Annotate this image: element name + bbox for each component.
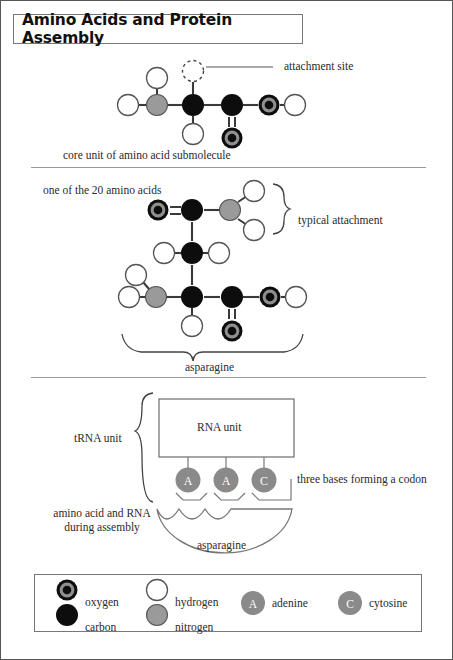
nitrogen-atom-icon	[146, 287, 167, 308]
hydrogen-atom-icon	[182, 316, 203, 337]
typical-attachment-label: typical attachment	[298, 214, 383, 226]
amide-double-bond	[170, 207, 181, 214]
core-unit-caption: core unit of amino acid submolecule	[63, 149, 231, 161]
hydrogen-atom-icon	[285, 95, 306, 116]
hydrogen-atom-icon	[286, 287, 307, 308]
legend-item-hydrogen: hydrogen	[175, 596, 218, 608]
hydrogen-atom-icon	[118, 95, 139, 116]
carbon-atom-icon	[221, 286, 243, 308]
hydrogen-atom-icon	[147, 68, 168, 89]
asparagine-brace	[122, 334, 303, 361]
diagram-page: Amino Acids and Protein Assembly	[0, 0, 453, 660]
carbon-atom-icon	[181, 199, 203, 221]
bowl-asparagine-label: asparagine	[197, 539, 246, 551]
oxygen-atom-icon	[260, 287, 281, 308]
carbon-atom-icon	[181, 242, 203, 264]
nitrogen-atom-icon	[220, 200, 241, 221]
attachment-site-icon	[183, 61, 204, 82]
diagram-artwork: A A C A C	[1, 1, 453, 660]
legend-item-cytosine: cytosine	[369, 597, 407, 609]
amino-acid-heading: one of the 20 amino acids	[43, 184, 161, 196]
legend-item-adenine: adenine	[272, 597, 308, 609]
oxygen-atom-icon	[259, 95, 280, 116]
hydrogen-atom-icon	[126, 265, 147, 286]
legend-item-carbon: carbon	[85, 621, 116, 633]
codon-bases: A A C	[176, 468, 277, 493]
oxygen-atom-icon	[222, 128, 243, 149]
base-letter: A	[222, 474, 231, 488]
asparagine-brace-label: asparagine	[185, 361, 234, 373]
legend-item-oxygen: oxygen	[85, 596, 119, 608]
assembly-label-line2: during assembly	[64, 521, 140, 533]
hydrogen-atom-icon	[244, 220, 265, 241]
hydrogen-atom-icon	[154, 243, 175, 264]
assembly-label: amino acid and RNA during assembly	[42, 506, 162, 535]
oxygen-atom-icon	[148, 200, 169, 221]
hydrogen-atom-icon	[183, 124, 204, 145]
carbon-atom-icon	[221, 94, 243, 116]
carboxyl-double-bond	[229, 309, 235, 319]
rna-unit-label: RNA unit	[197, 421, 241, 433]
asparagine-structure	[119, 181, 307, 362]
hydrogen-atom-icon	[244, 181, 265, 202]
typical-attachment-brace	[273, 184, 290, 234]
hydrogen-atom-icon	[119, 287, 140, 308]
carbon-atom-icon	[182, 94, 204, 116]
core-unit-structure	[118, 61, 306, 149]
hydrogen-atom-icon	[209, 243, 230, 264]
trna-unit-label: tRNA unit	[74, 432, 122, 444]
carbon-atom-icon	[181, 286, 203, 308]
carbonyl-double-bond	[229, 117, 235, 127]
base-letter: C	[260, 474, 268, 488]
oxygen-atom-icon	[222, 321, 243, 342]
nitrogen-atom-icon	[147, 95, 168, 116]
attachment-site-label: attachment site	[284, 60, 353, 72]
codon-stems	[188, 457, 264, 468]
assembly-label-line1: amino acid and RNA	[53, 507, 150, 519]
trna-brace	[135, 393, 153, 502]
base-letter: A	[184, 474, 193, 488]
legend-item-nitrogen: nitrogen	[175, 621, 213, 633]
codon-label: three bases forming a codon	[297, 473, 427, 485]
